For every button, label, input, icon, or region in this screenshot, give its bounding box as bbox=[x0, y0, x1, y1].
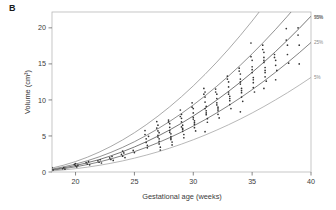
scatter-point bbox=[298, 63, 300, 65]
scatter-point bbox=[158, 132, 160, 134]
scatter-point bbox=[97, 160, 99, 162]
scatter-point bbox=[216, 104, 218, 106]
scatter-point bbox=[85, 162, 87, 164]
scatter-point bbox=[217, 113, 219, 115]
scatter-point bbox=[156, 121, 158, 123]
scatter-point bbox=[157, 130, 159, 132]
scatter-point bbox=[240, 83, 242, 85]
scatter-point bbox=[251, 66, 253, 68]
scatter-point bbox=[205, 110, 207, 112]
scatter-point bbox=[204, 101, 206, 103]
scatter-point bbox=[238, 70, 240, 72]
scatter-point bbox=[159, 149, 161, 151]
scatter-point bbox=[262, 49, 264, 51]
scatter-point bbox=[205, 114, 207, 116]
scatter-point bbox=[263, 57, 265, 59]
scatter-point bbox=[263, 62, 265, 64]
scatter-point bbox=[169, 132, 171, 134]
scatter-point bbox=[86, 163, 88, 165]
figure-panel-b: B 2025303540 05101520 95%75%50%25%5% Ges… bbox=[0, 0, 336, 210]
scatter-point bbox=[157, 136, 159, 138]
scatter-point bbox=[170, 137, 172, 139]
scatter-point bbox=[205, 106, 207, 108]
scatter-point bbox=[229, 98, 231, 100]
scatter-point bbox=[229, 104, 231, 106]
scatter-point bbox=[203, 93, 205, 95]
scatter-point bbox=[203, 88, 205, 90]
scatter-point bbox=[238, 67, 240, 69]
scatter-point bbox=[170, 136, 172, 138]
scatter-point bbox=[263, 52, 265, 54]
panel-label: B bbox=[9, 4, 16, 13]
scatter-point bbox=[298, 44, 300, 46]
x-tick-label: 20 bbox=[72, 177, 80, 186]
scatter-point bbox=[145, 138, 147, 140]
scatter-point bbox=[229, 95, 231, 97]
scatter-point bbox=[171, 144, 173, 146]
scatter-point bbox=[287, 54, 289, 56]
scatter-point bbox=[250, 56, 252, 58]
scatter-point bbox=[275, 59, 277, 61]
scatter-point bbox=[148, 135, 150, 137]
scatter-point bbox=[169, 130, 171, 132]
scatter-point bbox=[288, 62, 290, 64]
scatter-point bbox=[191, 102, 193, 104]
scatter-point bbox=[228, 86, 230, 88]
scatter-point bbox=[111, 156, 113, 158]
scatter-point bbox=[181, 126, 183, 128]
x-tick-label: 40 bbox=[307, 177, 315, 186]
scatter-point bbox=[274, 57, 276, 59]
scatter-point bbox=[241, 88, 243, 90]
scatter-point bbox=[254, 91, 256, 93]
scatter-point bbox=[240, 111, 242, 113]
x-axis-title: Gestational age (weeks) bbox=[142, 192, 222, 201]
scatter-point bbox=[241, 90, 243, 92]
scatter-point bbox=[158, 138, 160, 140]
scatter-point bbox=[194, 120, 196, 122]
scatter-point bbox=[217, 106, 219, 108]
scatter-point bbox=[192, 112, 194, 114]
scatter-point bbox=[168, 119, 170, 121]
scatter-point bbox=[264, 76, 266, 78]
scatter-point bbox=[134, 152, 136, 154]
scatter-point bbox=[145, 142, 147, 144]
scatter-point bbox=[144, 134, 146, 136]
percentile-label: 25% bbox=[314, 40, 323, 45]
chart-background bbox=[0, 0, 336, 210]
y-tick-label: 10 bbox=[38, 96, 46, 105]
scatter-point bbox=[122, 155, 124, 157]
y-tick-label: 0 bbox=[42, 168, 46, 177]
scatter-point bbox=[276, 70, 278, 72]
scatter-point bbox=[191, 106, 193, 108]
scatter-point bbox=[147, 144, 149, 146]
scatter-point bbox=[250, 42, 252, 44]
scatter-point bbox=[251, 72, 253, 74]
scatter-point bbox=[204, 131, 206, 133]
scatter-point bbox=[181, 117, 183, 119]
scatter-point bbox=[144, 130, 146, 132]
scatter-point bbox=[229, 100, 231, 102]
scatter-point bbox=[169, 126, 171, 128]
x-tick-label: 25 bbox=[130, 177, 138, 186]
scatter-point bbox=[265, 80, 267, 82]
scatter-point bbox=[52, 169, 54, 171]
scatter-point bbox=[98, 161, 100, 163]
scatter-point bbox=[204, 91, 206, 93]
scatter-point bbox=[240, 81, 242, 83]
y-tick-label: 20 bbox=[38, 23, 46, 32]
scatter-point bbox=[194, 122, 196, 124]
scatter-point bbox=[252, 77, 254, 79]
scatter-point bbox=[156, 127, 158, 129]
x-tick-label: 35 bbox=[248, 177, 256, 186]
scatter-point bbox=[262, 44, 264, 46]
scatter-point bbox=[227, 75, 229, 77]
scatter-point bbox=[158, 141, 160, 143]
scatter-point bbox=[124, 157, 126, 159]
scatter-point bbox=[264, 67, 266, 69]
scatter-point bbox=[230, 108, 232, 110]
scatter-point bbox=[182, 124, 184, 126]
scatter-point bbox=[89, 164, 91, 166]
scatter-point bbox=[217, 108, 219, 110]
percentile-label: 5% bbox=[314, 75, 321, 80]
scatter-point bbox=[241, 96, 243, 98]
